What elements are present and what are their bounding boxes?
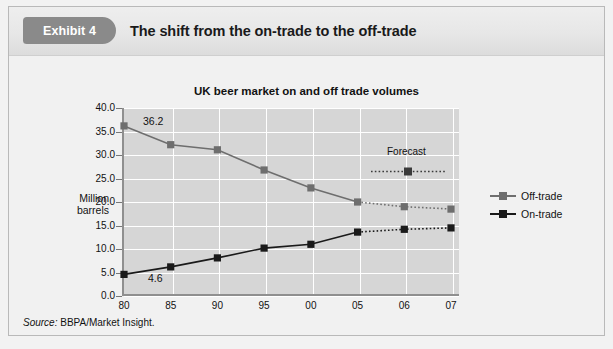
legend-label: On-trade xyxy=(521,208,562,220)
y-tick-label: 30.0 xyxy=(75,149,115,160)
x-tick-label: 95 xyxy=(244,300,284,311)
source-note: Source: BBPA/Market Insight. xyxy=(23,317,155,328)
data-point-marker xyxy=(214,146,221,153)
y-tick-label: 10.0 xyxy=(75,243,115,254)
y-tick-label: 25.0 xyxy=(75,173,115,184)
data-point-marker xyxy=(214,254,221,261)
y-tick-label: 5.0 xyxy=(75,267,115,278)
chart-container: UK beer market on and off trade volumes … xyxy=(9,7,604,337)
chart-title: UK beer market on and off trade volumes xyxy=(9,85,604,97)
exhibit-page: Exhibit 4 The shift from the on-trade to… xyxy=(0,0,613,349)
data-point-marker xyxy=(401,226,408,233)
data-point-marker xyxy=(261,245,268,252)
legend-swatch-icon xyxy=(490,209,516,219)
legend-item-off-trade[interactable]: Off-trade xyxy=(490,188,562,203)
y-tick-label: 35.0 xyxy=(75,126,115,137)
y-tick-label: 40.0 xyxy=(75,102,115,113)
forecast-line-sample xyxy=(371,167,447,176)
annotation-off-trade-first: 36.2 xyxy=(143,115,163,127)
x-tick-label: 85 xyxy=(151,300,191,311)
data-point-marker xyxy=(120,271,127,278)
x-tick-label: 00 xyxy=(291,300,331,311)
x-tick-label: 06 xyxy=(384,300,424,311)
data-point-marker xyxy=(447,224,454,231)
data-point-marker xyxy=(354,198,361,205)
series-line-on-trade xyxy=(124,232,358,274)
source-prefix: Source: xyxy=(23,317,57,328)
x-tick-label: 90 xyxy=(197,300,237,311)
x-tick-label: 80 xyxy=(104,300,144,311)
gridline-horizontal xyxy=(124,296,459,297)
forecast-label: Forecast xyxy=(387,146,426,157)
series-layer xyxy=(122,108,459,296)
annotation-on-trade-first: 4.6 xyxy=(148,272,163,284)
series-line-off-trade xyxy=(124,126,358,202)
y-tick-label: 15.0 xyxy=(75,220,115,231)
data-point-marker xyxy=(307,184,314,191)
legend-item-on-trade[interactable]: On-trade xyxy=(490,206,562,221)
data-point-marker xyxy=(167,141,174,148)
legend-swatch-icon xyxy=(490,191,516,201)
exhibit-frame: Exhibit 4 The shift from the on-trade to… xyxy=(8,6,605,336)
x-tick-label: 05 xyxy=(338,300,378,311)
data-point-marker xyxy=(307,241,314,248)
data-point-marker xyxy=(167,263,174,270)
data-point-marker xyxy=(261,166,268,173)
x-tick-label: 07 xyxy=(431,300,471,311)
y-tick-label: 20.0 xyxy=(75,196,115,207)
chart-legend: Off-tradeOn-trade xyxy=(490,188,562,224)
data-point-marker xyxy=(447,206,454,213)
data-point-marker xyxy=(120,122,127,129)
legend-label: Off-trade xyxy=(521,190,562,202)
data-point-marker xyxy=(354,229,361,236)
source-text: BBPA/Market Insight. xyxy=(57,317,154,328)
y-tick-mark xyxy=(116,296,122,297)
data-point-marker xyxy=(401,203,408,210)
